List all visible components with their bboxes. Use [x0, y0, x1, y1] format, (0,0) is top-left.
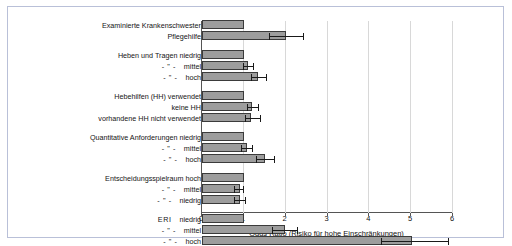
x-tick-label-2: 2	[275, 214, 295, 223]
error-bar	[256, 159, 274, 160]
error-bar	[247, 107, 258, 108]
bar	[202, 132, 244, 141]
error-bar	[251, 77, 266, 78]
label-text: hoch	[185, 73, 201, 82]
category-label: Examinierte Krankenschwester	[102, 21, 201, 31]
category-label: - " - mittel	[162, 185, 201, 195]
forest-plot-chart: Examinierte KrankenschwesterPflegehilfeH…	[8, 7, 503, 237]
error-bar-cap-low	[243, 63, 244, 70]
label-text: mittel	[184, 62, 201, 71]
error-bar-cap-high	[448, 238, 449, 245]
gridline-4	[368, 21, 369, 213]
error-bar-cap-low	[251, 74, 252, 81]
bar	[202, 102, 252, 111]
label-prefix: - " -	[163, 73, 185, 82]
label-text: Quantitative Anforderungen niedrig	[90, 133, 201, 142]
label-text: keine HH	[171, 103, 201, 112]
error-bar	[272, 230, 297, 231]
bar	[202, 143, 247, 152]
category-label: - " - niedrig	[157, 196, 201, 206]
error-bar-cap-high	[253, 63, 254, 70]
error-bar-cap-high	[260, 115, 261, 122]
error-bar-cap-high	[258, 104, 259, 111]
error-bar-cap-high	[252, 145, 253, 152]
label-text: Heben und Tragen niedrig	[118, 51, 201, 60]
error-bar-cap-low	[269, 33, 270, 40]
label-text: niedrig	[179, 196, 201, 205]
error-bar-cap-low	[234, 186, 235, 193]
label-prefix: - " -	[163, 155, 185, 164]
label-prefix: - " -	[157, 196, 179, 205]
error-bar-cap-high	[266, 74, 267, 81]
label-text: mittel	[184, 185, 201, 194]
x-tick-label-6: 6	[442, 214, 462, 223]
gridline-3	[327, 21, 328, 213]
category-label: - " - hoch	[163, 237, 201, 246]
plot-area: Odds Ratio (Risiko für hohe Einschränkun…	[201, 16, 452, 213]
bar	[202, 173, 244, 182]
label-text: Examinierte Krankenschwester	[102, 21, 201, 30]
label-text: mittel	[184, 144, 201, 153]
label-text: Pflegehilfe	[167, 32, 201, 41]
label-text: Entscheidungsspielraum hoch	[105, 174, 201, 183]
error-bar-cap-low	[234, 197, 235, 204]
category-label-column: Examinierte KrankenschwesterPflegehilfeH…	[18, 16, 201, 213]
label-text: vorhandene HH nicht verwendet	[98, 114, 201, 123]
label-prefix: - " -	[162, 185, 184, 194]
category-label: - " - mittel	[162, 144, 201, 154]
error-bar-cap-high	[303, 33, 304, 40]
error-bar	[245, 118, 260, 119]
error-bar-cap-low	[241, 145, 242, 152]
error-bar-cap-high	[245, 197, 246, 204]
category-label: vorhandene HH nicht verwendet	[98, 114, 201, 124]
error-bar	[243, 66, 253, 67]
error-bar	[381, 241, 448, 242]
category-label: - " - mittel	[162, 62, 201, 72]
x-tick-label-3: 3	[317, 214, 337, 223]
error-bar	[241, 148, 252, 149]
category-label: Heben und Tragen niedrig	[118, 51, 201, 61]
chart-frame: Examinierte KrankenschwesterPflegehilfeH…	[7, 6, 504, 238]
error-bar-cap-low	[245, 115, 246, 122]
error-bar-cap-low	[256, 156, 257, 163]
category-label: - " - hoch	[163, 155, 201, 165]
category-label: - " - mittel	[162, 226, 201, 236]
category-label: keine HH	[171, 103, 201, 113]
error-bar-cap-low	[247, 104, 248, 111]
bar	[202, 72, 258, 81]
category-label: Hebehilfen (HH) verwendet	[114, 92, 201, 102]
error-bar-cap-high	[243, 186, 244, 193]
label-prefix: ERI	[158, 215, 180, 224]
bar	[202, 61, 248, 70]
error-bar	[234, 200, 245, 201]
label-prefix: - " -	[162, 144, 184, 153]
category-label: Pflegehilfe	[167, 32, 201, 42]
bar	[202, 214, 244, 223]
label-text: mittel	[184, 226, 201, 235]
label-text: hoch	[185, 237, 201, 246]
label-prefix: - " -	[162, 62, 184, 71]
error-bar-cap-low	[381, 238, 382, 245]
label-text: Hebehilfen (HH) verwendet	[114, 92, 201, 101]
category-label: Quantitative Anforderungen niedrig	[90, 133, 201, 143]
gridline-6	[452, 21, 453, 213]
category-label: Entscheidungsspielraum hoch	[105, 174, 201, 184]
bar	[202, 91, 244, 100]
error-bar	[234, 189, 243, 190]
x-tick-label-5: 5	[400, 214, 420, 223]
x-tick-label-4: 4	[358, 214, 378, 223]
error-bar-cap-high	[274, 156, 275, 163]
error-bar	[269, 36, 304, 37]
label-prefix: - " -	[162, 226, 184, 235]
label-text: hoch	[185, 155, 201, 164]
gridline-5	[410, 21, 411, 213]
error-bar-cap-low	[272, 227, 273, 234]
category-label: - " - hoch	[163, 73, 201, 83]
bar	[202, 50, 244, 59]
error-bar-cap-high	[297, 227, 298, 234]
bar	[202, 20, 244, 29]
label-prefix: - " -	[163, 237, 185, 246]
gridline-2	[285, 21, 286, 213]
